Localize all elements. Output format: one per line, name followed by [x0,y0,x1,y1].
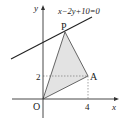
point-p-label: P [61,21,67,32]
x-axis-label: x [111,102,116,112]
origin-label: O [33,101,40,112]
line-x-2y-10 [11,17,92,59]
y-axis-arrow-icon [41,5,45,10]
triangle-opa [43,32,88,99]
y-axis-label: y [33,3,38,13]
x-tick-label: 4 [85,102,90,112]
coordinate-diagram: y x O P A 2 4 x−2y+10=0 [0,0,126,126]
point-a-label: A [90,71,98,82]
y-tick-label: 2 [36,72,41,82]
x-axis-arrow-icon [114,97,119,101]
line-equation-label: x−2y+10=0 [57,6,101,16]
